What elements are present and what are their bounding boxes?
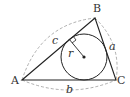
vertex-label-a: A: [10, 74, 20, 87]
vertex-label-c: C: [117, 74, 125, 87]
side-label-a: a: [109, 40, 116, 53]
radius-label-r: r: [68, 47, 74, 60]
side-label-c: c: [52, 34, 58, 47]
triangle-incircle-diagram: B A C c a b r: [0, 0, 130, 97]
side-label-b: b: [66, 83, 73, 96]
vertex-label-b: B: [93, 2, 101, 15]
